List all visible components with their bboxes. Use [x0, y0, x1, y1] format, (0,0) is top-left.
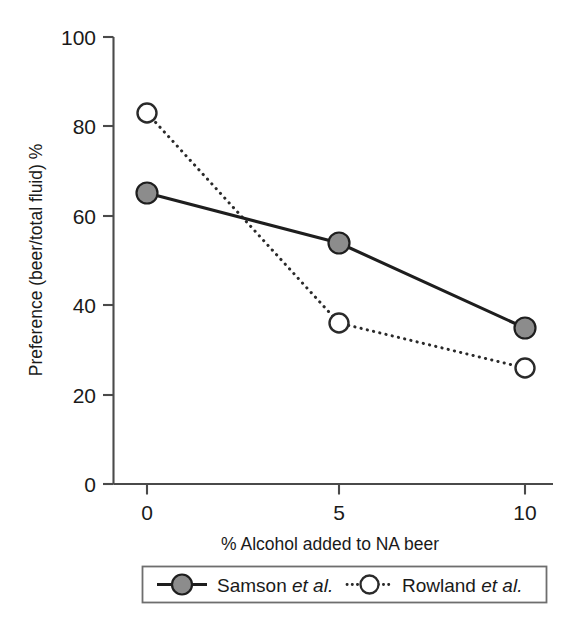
y-tick-label-100: 100	[61, 26, 96, 49]
legend-entry-samson[interactable]: Samson et al.	[157, 575, 333, 597]
data-point-samson-5	[329, 233, 350, 254]
series-samson-line	[147, 193, 525, 328]
legend-label-rowland-italic: et al.	[481, 575, 522, 596]
legend-marker-open-circle-icon	[361, 576, 379, 594]
data-point-rowland-5	[330, 314, 349, 333]
data-point-samson-10	[515, 318, 536, 339]
y-tick-label-40: 40	[73, 294, 96, 317]
y-tick-label-80: 80	[73, 115, 96, 138]
figure-container: 100 80 60 40 20 0 Preference (beer/total…	[0, 0, 588, 621]
data-point-samson-0	[137, 183, 158, 204]
legend-label-rowland: Rowland et al.	[402, 575, 522, 596]
legend-label-samson-plain: Samson	[217, 575, 292, 596]
y-tick-label-60: 60	[73, 205, 96, 228]
line-chart: 100 80 60 40 20 0 Preference (beer/total…	[0, 0, 588, 621]
legend-marker-filled-circle-icon	[172, 575, 192, 595]
legend-label-samson: Samson et al.	[217, 575, 333, 596]
y-axis-title: Preference (beer/total fluid) %	[26, 144, 46, 376]
y-tick-label-20: 20	[73, 384, 96, 407]
data-point-rowland-0	[138, 104, 157, 123]
x-tick-label-0: 0	[141, 501, 153, 524]
data-point-rowland-10	[516, 359, 535, 378]
legend: Samson et al. Rowland et al.	[143, 567, 547, 603]
legend-entry-rowland[interactable]: Rowland et al.	[347, 575, 522, 596]
x-tick-label-5: 5	[333, 501, 345, 524]
x-axis: 0 5 10 % Alcohol added to NA beer	[114, 484, 554, 554]
y-axis: 100 80 60 40 20 0 Preference (beer/total…	[26, 26, 114, 496]
x-axis-title: % Alcohol added to NA beer	[221, 534, 439, 554]
x-tick-label-10: 10	[513, 501, 536, 524]
legend-label-samson-italic: et al.	[292, 575, 333, 596]
legend-label-rowland-plain: Rowland	[402, 575, 481, 596]
y-tick-label-0: 0	[84, 473, 96, 496]
